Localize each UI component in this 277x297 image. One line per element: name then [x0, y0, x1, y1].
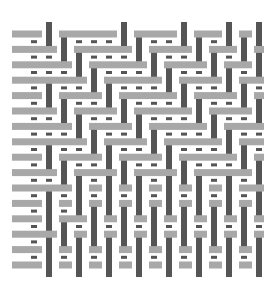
warp-float: [211, 207, 217, 246]
weft-float: [89, 185, 102, 192]
warp-tick: [181, 71, 187, 74]
warp-tick: [256, 133, 262, 136]
weft-float: [12, 185, 72, 192]
warp-float: [106, 176, 112, 215]
warp-tick: [136, 225, 142, 228]
warp-tick: [241, 179, 247, 182]
weft-float: [179, 200, 192, 207]
weft-float: [119, 200, 132, 207]
warp-float: [151, 207, 157, 246]
warp-float: [106, 84, 112, 108]
warp-tick: [211, 256, 217, 259]
warp-tick: [91, 163, 97, 166]
warp-tick: [151, 194, 157, 197]
warp-tick: [46, 179, 52, 182]
warp-tick: [121, 56, 127, 59]
warp-tick: [151, 179, 157, 182]
weft-float: [12, 169, 57, 176]
weft-float: [179, 185, 192, 192]
warp-tick: [241, 117, 247, 120]
warp-tick: [241, 71, 247, 74]
weft-float: [89, 200, 102, 207]
weft-float: [74, 231, 87, 238]
warp-float: [46, 191, 52, 230]
weft-float: [239, 185, 264, 192]
warp-tick: [136, 148, 142, 151]
warp-tick: [31, 163, 37, 166]
warp-tick: [91, 40, 97, 43]
weft-float: [239, 138, 264, 145]
warp-tick: [166, 40, 172, 43]
warp-float: [166, 238, 172, 277]
weft-float: [164, 138, 222, 145]
warp-tick: [31, 102, 37, 105]
warp-tick: [166, 56, 172, 59]
warp-float: [61, 161, 67, 185]
warp-tick: [196, 148, 202, 151]
weft-float: [209, 46, 237, 53]
weft-float: [12, 31, 42, 38]
warp-tick: [121, 86, 127, 89]
warp-float: [136, 238, 142, 277]
weft-float: [12, 154, 42, 161]
warp-tick: [256, 225, 262, 228]
warp-tick: [121, 194, 127, 197]
warp-float: [226, 22, 232, 46]
warp-tick: [136, 71, 142, 74]
weft-float: [179, 77, 222, 84]
warp-tick: [76, 102, 82, 105]
warp-float: [136, 176, 142, 215]
weft-float: [239, 262, 252, 269]
warp-tick: [211, 194, 217, 197]
warp-tick: [76, 163, 82, 166]
warp-tick: [151, 117, 157, 120]
warp-tick: [226, 102, 232, 105]
weft-float: [59, 31, 117, 38]
warp-tick: [76, 148, 82, 151]
warp-tick: [166, 117, 172, 120]
warp-tick: [121, 133, 127, 136]
warp-tick: [106, 40, 112, 43]
weft-float: [254, 92, 264, 99]
warp-tick: [46, 71, 52, 74]
warp-tick: [181, 117, 187, 120]
weft-float: [194, 231, 207, 238]
warp-float: [46, 238, 52, 277]
weft-float: [12, 138, 87, 145]
warp-tick: [61, 194, 67, 197]
warp-tick: [166, 102, 172, 105]
warp-tick: [61, 256, 67, 259]
warp-float: [106, 238, 112, 277]
weft-float: [89, 262, 102, 269]
warp-tick: [31, 117, 37, 120]
weft-float: [209, 200, 222, 207]
weft-float: [179, 246, 192, 253]
weft-float: [12, 46, 57, 53]
warp-tick: [76, 225, 82, 228]
weft-float: [12, 200, 42, 207]
warp-tick: [61, 86, 67, 89]
warp-float: [256, 191, 262, 215]
warp-float: [76, 114, 82, 138]
warp-tick: [211, 102, 217, 105]
weft-float: [194, 31, 222, 38]
warp-tick: [196, 225, 202, 228]
weft-float: [209, 108, 252, 115]
weft-float: [224, 215, 237, 222]
weft-float: [12, 108, 57, 115]
warp-tick: [31, 56, 37, 59]
warp-float: [256, 161, 262, 185]
warp-tick: [46, 133, 52, 136]
warp-float: [136, 114, 142, 138]
warp-tick: [106, 117, 112, 120]
warp-tick: [226, 56, 232, 59]
warp-tick: [151, 86, 157, 89]
weft-float: [254, 231, 264, 238]
weft-float: [209, 262, 222, 269]
warp-tick: [136, 102, 142, 105]
warp-float: [46, 22, 52, 46]
weft-float: [104, 215, 117, 222]
warp-tick: [106, 56, 112, 59]
warp-tick: [211, 163, 217, 166]
warp-float: [196, 176, 202, 215]
